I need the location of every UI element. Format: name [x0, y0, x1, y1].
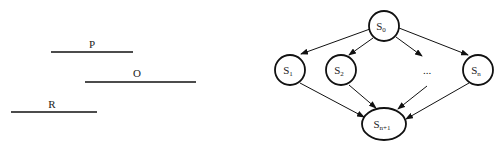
edge-ellipsis-sn1: [398, 86, 427, 109]
edge-s2-sn1: [349, 85, 376, 108]
edge-s0-s1: [301, 29, 370, 54]
edge-s0-s2: [349, 38, 373, 55]
segment-o: O: [85, 67, 196, 82]
node-s1: S1: [275, 55, 305, 85]
segment-r: R: [11, 98, 97, 112]
node-sn-plus-1: Sn+1: [362, 108, 406, 140]
segment-p-label: P: [89, 38, 95, 50]
diagram-canvas: P O R S0 S1 S2 ... Sn Sn+1: [0, 0, 499, 150]
segment-p: P: [51, 38, 133, 52]
node-s2: S2: [326, 55, 356, 85]
edge-s0-sn: [399, 28, 468, 55]
edge-sn-sn1: [406, 83, 469, 119]
edge-s1-sn1: [300, 83, 364, 117]
segment-o-label: O: [133, 67, 141, 79]
node-sn: Sn: [463, 55, 493, 85]
ellipsis-node: ...: [423, 64, 432, 76]
edge-s0-ellipsis: [396, 37, 422, 56]
node-s0: S0: [369, 11, 399, 41]
segment-r-label: R: [48, 98, 56, 110]
